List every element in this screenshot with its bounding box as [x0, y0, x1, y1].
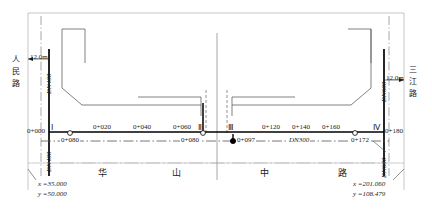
right-cross-road-char-3: 路	[409, 90, 417, 98]
left-coordinate-y: y =50.000	[38, 191, 67, 198]
left-upper-pipe-label-dn400: DN400	[46, 74, 53, 94]
branch-station-0-080-right: 0+080	[180, 137, 200, 144]
station-0-140: 0+140	[292, 124, 310, 131]
node-label-iv: Ⅳ	[373, 124, 380, 132]
left-coordinate-leader	[28, 169, 36, 180]
right-north-kerb	[232, 29, 371, 105]
left-cross-road-char-3: 路	[12, 80, 20, 88]
right-coordinate-y: y =108.479	[353, 191, 385, 198]
branch-station-0-080-left: 0+080	[60, 137, 80, 144]
right-coordinate-x: x =201.060	[353, 181, 385, 188]
node-label-ii: Ⅱ	[198, 124, 202, 132]
node-label-iii: Ⅲ	[228, 124, 234, 132]
station-0-120: 0+120	[262, 124, 280, 131]
left-cross-road-char-2: 民	[12, 68, 20, 76]
road-name-char-3: 中	[260, 169, 269, 178]
station-0-160: 0+160	[322, 124, 340, 131]
station-0-020: 0+020	[93, 124, 111, 131]
branch-pipe-label-dn300: DN300	[288, 137, 310, 144]
road-name-char-4: 路	[338, 169, 347, 178]
right-upper-pipe-label-dn600: DN600	[381, 82, 388, 102]
left-width-label: 12.0m	[30, 54, 48, 61]
left-cross-road-char-1: 人	[12, 56, 20, 64]
left-north-kerb	[62, 29, 201, 105]
road-name-char-2: 山	[172, 169, 181, 178]
node-label-i: Ⅰ	[51, 124, 53, 132]
left-north-building-outline	[62, 29, 85, 63]
station-0-040: 0+040	[133, 124, 151, 131]
station-0-060: 0+060	[173, 124, 191, 131]
left-lower-pipe-label-dn400: DN400	[46, 152, 53, 172]
manhole-node-0172	[353, 131, 358, 136]
right-cross-road-char-1: 三	[409, 66, 417, 74]
right-lower-pipe-label-dn600: DN600	[381, 158, 388, 178]
drawing-canvas: 人 民 路 三 江 路 12.0m 12.0m DN400 DN400 DN60…	[0, 0, 432, 212]
right-width-label: 12.0m	[386, 75, 404, 82]
left-coordinate-x: x =35.000	[38, 181, 67, 188]
branch-station-0-172: 0+172	[350, 137, 370, 144]
station-0-180: 0+180	[385, 128, 403, 135]
right-cross-road-char-2: 江	[409, 78, 417, 86]
right-north-building-outline	[348, 29, 371, 63]
road-name-char-1: 华	[98, 169, 107, 178]
station-0-000: 0+000	[27, 128, 45, 135]
branch-station-0-097: 0+097	[236, 137, 256, 144]
manhole-node-0080-left	[68, 131, 73, 136]
right-coordinate-leader	[393, 169, 404, 180]
